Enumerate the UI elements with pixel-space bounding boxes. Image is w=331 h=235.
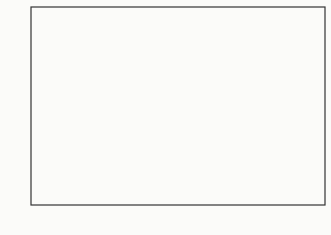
diffusion-chart	[0, 0, 331, 235]
plot-frame	[31, 7, 325, 205]
